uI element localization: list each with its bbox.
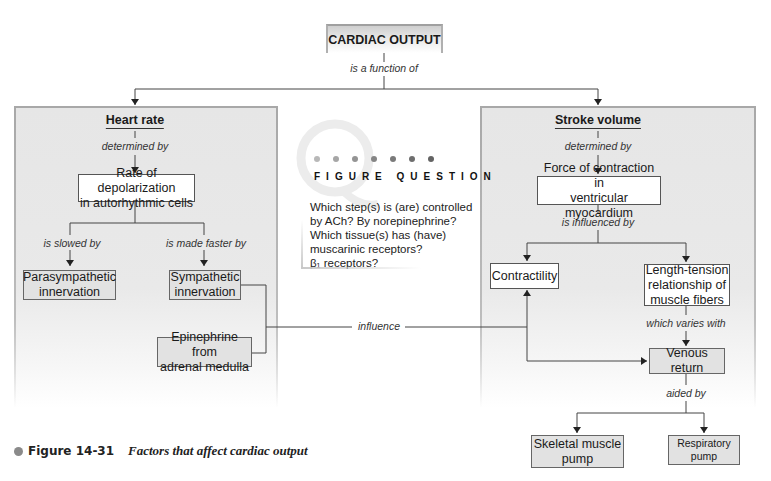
venous-return-node: Venous return xyxy=(649,348,725,374)
node-line: muscle fibers xyxy=(650,293,724,308)
heart-rate-heading: Heart rate xyxy=(106,113,164,129)
figure-question-underline xyxy=(301,267,421,269)
sympathetic-innervation-node: Sympathetic innervation xyxy=(169,270,241,300)
bullet-icon xyxy=(14,447,23,456)
cardiac-output-node: CARDIAC OUTPUT xyxy=(326,24,443,53)
relation-is-a-function-of: is a function of xyxy=(350,62,418,74)
respiratory-pump-node: Respiratory pump xyxy=(668,435,740,465)
node-line: Parasympathetic xyxy=(23,270,116,285)
cardiac-output-label: CARDIAC OUTPUT xyxy=(328,33,441,47)
length-tension-node: Length-tension relationship of muscle fi… xyxy=(644,264,730,306)
dot-icon xyxy=(333,156,339,162)
contractility-node: Contractility xyxy=(490,263,559,289)
node-line: Rate of depolarization xyxy=(79,166,194,196)
relation-determined-by-right: determined by xyxy=(565,140,632,152)
figure-number: Figure 14-31 xyxy=(28,444,114,458)
relation-influence: influence xyxy=(358,320,400,332)
node-line: innervation xyxy=(174,285,235,300)
node-line: Force of contraction in xyxy=(538,161,660,191)
node-line: Skeletal muscle xyxy=(534,437,622,452)
figure-question-title: FIGURE QUESTION xyxy=(314,171,497,182)
node-line: pump xyxy=(691,450,717,463)
rate-of-depolarization-node: Rate of depolarization in autorhythmic c… xyxy=(78,174,195,202)
node-line: Respiratory xyxy=(677,437,731,450)
relation-is-made-faster-by: is made faster by xyxy=(166,237,246,249)
dot-icon xyxy=(390,156,396,162)
relation-aided-by: aided by xyxy=(666,387,706,399)
node-line: Sympathetic xyxy=(171,270,240,285)
relation-is-slowed-by: is slowed by xyxy=(43,237,100,249)
dot-icon xyxy=(314,156,320,162)
node-line: pump xyxy=(562,452,593,467)
dot-icon xyxy=(409,156,415,162)
figure-title: Factors that affect cardiac output xyxy=(128,443,308,458)
question-line: muscarinic receptors? xyxy=(310,242,480,256)
node-line: Length-tension xyxy=(646,263,729,278)
node-line: innervation xyxy=(39,285,100,300)
parasympathetic-innervation-node: Parasympathetic innervation xyxy=(23,270,116,300)
relation-is-influenced-by: is influenced by xyxy=(562,216,634,228)
relation-determined-by-left: determined by xyxy=(102,140,169,152)
node-line: Venous return xyxy=(650,346,724,376)
figure-caption: Figure 14-31Factors that affect cardiac … xyxy=(14,443,308,459)
node-line: relationship of xyxy=(648,278,726,293)
figure-question-text: Which step(s) is (are) controlled by ACh… xyxy=(310,200,480,270)
question-line: by ACh? By norepinephrine? xyxy=(310,214,480,228)
stroke-volume-heading: Stroke volume xyxy=(555,113,641,129)
node-line: in autorhythmic cells xyxy=(80,196,193,211)
dot-icon xyxy=(428,156,434,162)
node-line: Contractility xyxy=(492,269,557,284)
epinephrine-node: Epinephrine from adrenal medulla xyxy=(157,337,252,367)
skeletal-muscle-pump-node: Skeletal muscle pump xyxy=(531,435,624,468)
relation-which-varies-with: which varies with xyxy=(646,317,725,329)
dot-icon xyxy=(371,156,377,162)
figure-question-rule xyxy=(301,220,303,268)
dot-icon xyxy=(352,156,358,162)
node-line: Epinephrine from xyxy=(158,330,251,360)
question-line: Which step(s) is (are) controlled xyxy=(310,200,480,214)
force-of-contraction-node: Force of contraction in ventricular myoc… xyxy=(537,176,661,205)
question-line: Which tissue(s) has (have) xyxy=(310,228,480,242)
node-line: adrenal medulla xyxy=(160,360,249,375)
